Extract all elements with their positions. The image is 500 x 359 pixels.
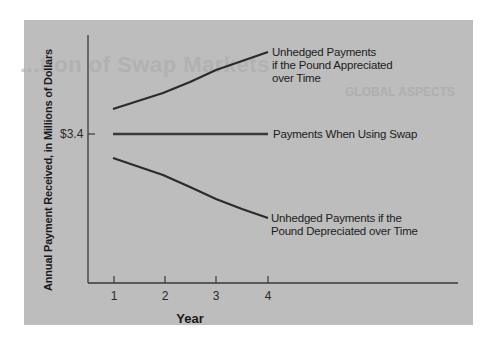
annotation-depreciated: Unhedged Payments if the Pound Depreciat… <box>271 212 418 238</box>
annotation-swap-line-1: Payments When Using Swap <box>273 128 417 141</box>
x-tick-label-2: 2 <box>162 289 169 303</box>
x-tick-label-3: 3 <box>213 289 220 303</box>
chart-plot <box>0 0 500 359</box>
x-tick-label-4: 4 <box>265 289 272 303</box>
series-depreciated-line <box>113 158 268 218</box>
x-axis-label: Year <box>176 311 203 326</box>
annotation-appreciated: Unhedged Payments if the Pound Appreciat… <box>272 46 393 85</box>
annotation-swap: Payments When Using Swap <box>273 128 417 141</box>
series-appreciated-line <box>113 52 268 109</box>
y-tick-label-3.4: $3.4 <box>60 127 83 141</box>
annotation-appreciated-line-3: over Time <box>272 72 393 85</box>
annotation-appreciated-line-1: Unhedged Payments <box>272 46 393 59</box>
annotation-appreciated-line-2: if the Pound Appreciated <box>272 59 393 72</box>
x-tick-label-1: 1 <box>111 289 118 303</box>
annotation-depreciated-line-1: Unhedged Payments if the <box>271 212 418 225</box>
annotation-depreciated-line-2: Pound Depreciated over Time <box>271 225 418 238</box>
y-axis-label: Annual Payment Received, in Millions of … <box>42 49 54 291</box>
